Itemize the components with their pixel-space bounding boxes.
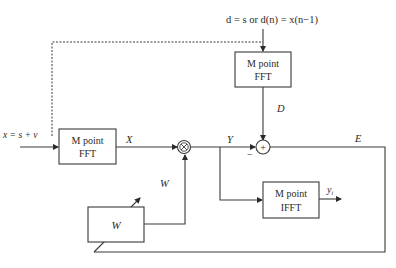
adder-plus: +: [260, 142, 266, 153]
adaptation-input-slash: [94, 241, 105, 252]
d-signal-label: D: [276, 103, 285, 114]
output-label: yi: [326, 184, 333, 196]
fft-input-line1: M point: [72, 135, 104, 146]
e-signal-label: E: [354, 133, 362, 144]
ifft-line1: M point: [275, 188, 307, 199]
y-branch-line: [220, 147, 262, 200]
input-label: x = s + v: [2, 130, 38, 140]
weights-block: W: [88, 207, 144, 242]
weights-label: W: [111, 219, 121, 231]
dashed-input-connection: [52, 42, 263, 136]
fft-desired-line2: FFT: [254, 71, 271, 82]
adder-node: +: [256, 140, 270, 154]
y-signal-label: Y: [227, 134, 234, 145]
w-signal-label: W: [160, 178, 170, 189]
adder-minus-sign: −: [247, 149, 253, 160]
w-signal-line: [144, 155, 185, 224]
fft-desired-block: M point FFT: [235, 52, 291, 87]
multiplier-node: [178, 141, 191, 154]
fft-input-line2: FFT: [79, 148, 96, 159]
ifft-output-block: M point IFFT: [263, 182, 319, 218]
fft-desired-line1: M point: [247, 58, 279, 69]
x-signal-label: X: [125, 134, 133, 145]
block-diagram: d = s or d(n) = x(n−1) M point FFT D x =…: [0, 0, 396, 268]
ifft-line2: IFFT: [281, 202, 302, 213]
top-input-label: d = s or d(n) = x(n−1): [226, 14, 318, 26]
adaptive-arrow-icon: [131, 198, 140, 207]
fft-input-block: M point FFT: [59, 129, 116, 164]
